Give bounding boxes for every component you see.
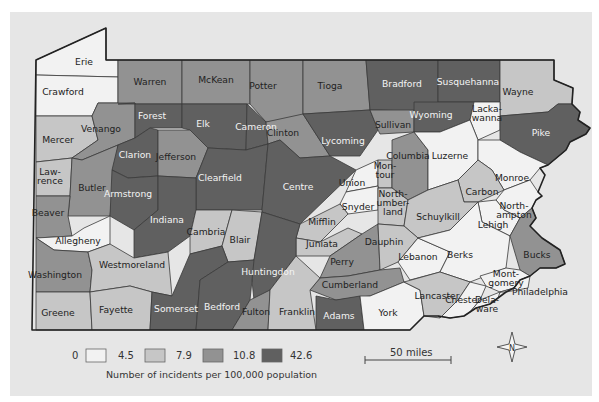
county-label-blair: Blair [230, 234, 251, 245]
county-label-butler: Butler [78, 182, 106, 193]
county-label-adams: Adams [323, 310, 355, 321]
county-label-lehigh: Lehigh [478, 219, 509, 230]
county-label-perry: Perry [330, 256, 354, 267]
legend-break-4: 42.6 [290, 350, 312, 361]
county-label-wyoming: Wyoming [409, 109, 452, 120]
county-label-washington: Washington [28, 269, 82, 280]
legend-caption: Number of incidents per 100,000 populati… [106, 369, 317, 380]
county-label-potter: Potter [249, 80, 277, 91]
legend-break-1: 4.5 [118, 350, 134, 361]
county-label-monroe: Monroe [495, 172, 530, 183]
county-label-carbon: Carbon [465, 186, 498, 197]
county-label-crawford: Crawford [42, 86, 84, 97]
county-label-bucks: Bucks [523, 249, 550, 260]
legend-break-2: 7.9 [176, 350, 192, 361]
county-label-mifflin: Mifflin [308, 216, 336, 227]
legend-break-3: 10.8 [233, 350, 255, 361]
county-label-centre: Centre [283, 181, 314, 192]
county-label-schuylkill: Schuylkill [416, 211, 460, 222]
county-label-warren: Warren [134, 76, 167, 87]
county-label-montgomery: Mont-gomery [488, 268, 524, 288]
county-label-lebanon: Lebanon [398, 251, 438, 262]
county-label-lycoming: Lycoming [321, 135, 365, 146]
county-label-northampton: North-ampton [496, 200, 532, 220]
county-label-mckean: McKean [198, 74, 234, 85]
county-label-fayette: Fayette [99, 304, 133, 315]
county-label-montour: Mon-tour [374, 160, 397, 180]
county-label-cambria: Cambria [187, 226, 226, 237]
county-label-armstrong: Armstrong [104, 188, 152, 199]
county-label-forest: Forest [138, 110, 167, 121]
pennsylvania-choropleth-map: ErieCrawfordWarrenMcKeanPotterTiogaBradf… [0, 0, 599, 402]
county-label-beaver: Beaver [32, 207, 65, 218]
county-label-franklin: Franklin [279, 306, 315, 317]
county-label-sullivan: Sullivan [375, 119, 411, 130]
county-label-wayne: Wayne [502, 86, 533, 97]
county-label-clearfield: Clearfield [198, 172, 242, 183]
county-label-bedford: Bedford [204, 301, 240, 312]
county-label-bradford: Bradford [382, 78, 422, 89]
county-label-huntingdon: Huntingdon [241, 266, 295, 277]
legend-swatch-class-0 [86, 349, 106, 362]
legend-break-0: 0 [72, 350, 78, 361]
county-label-tioga: Tioga [317, 80, 343, 91]
county-label-fulton: Fulton [242, 306, 270, 317]
legend-swatch-class-1 [145, 349, 165, 362]
county-label-york: York [377, 307, 398, 318]
county-label-indiana: Indiana [150, 214, 184, 225]
county-label-snyder: Snyder [342, 201, 375, 212]
county-label-luzerne: Luzerne [432, 150, 469, 161]
scale-bar-label: 50 miles [390, 347, 433, 358]
county-label-juniata: Juniata [305, 238, 338, 249]
county-label-berks: Berks [447, 249, 473, 260]
county-label-clinton: Clinton [267, 127, 300, 138]
county-label-venango: Venango [81, 123, 121, 134]
county-label-dauphin: Dauphin [365, 236, 404, 247]
county-label-erie: Erie [75, 56, 93, 67]
county-label-clarion: Clarion [119, 149, 152, 160]
county-label-elk: Elk [196, 118, 210, 129]
compass-north-label: N [509, 344, 515, 353]
legend-swatch-class-3 [262, 349, 282, 362]
county-label-allegheny: Allegheny [55, 235, 101, 246]
legend: 0 4.5 7.9 10.8 42.6 Number of incidents … [72, 349, 317, 380]
county-label-philadelphia: Philadelphia [512, 286, 568, 297]
county-label-delaware: Dela-ware [475, 294, 499, 314]
county-label-cumberland: Cumberland [322, 279, 378, 290]
county-label-columbia: Columbia [386, 150, 429, 161]
scale-bar: 50 miles [365, 347, 451, 364]
county-label-union: Union [339, 177, 366, 188]
county-label-somerset: Somerset [154, 303, 198, 314]
county-label-susquehanna: Susquehanna [437, 76, 499, 87]
county-label-pike: Pike [532, 127, 551, 138]
compass-rose-icon: N [497, 332, 527, 362]
county-label-greene: Greene [41, 307, 75, 318]
county-label-lawrence: Law-rence [37, 166, 63, 186]
county-label-westmoreland: Westmoreland [99, 259, 165, 270]
legend-swatch-class-2 [203, 349, 223, 362]
county-potter [250, 60, 303, 122]
county-label-mercer: Mercer [42, 134, 74, 145]
county-label-jefferson: Jefferson [155, 151, 197, 162]
county-label-lackawanna: Lacka-wanna [472, 103, 502, 123]
